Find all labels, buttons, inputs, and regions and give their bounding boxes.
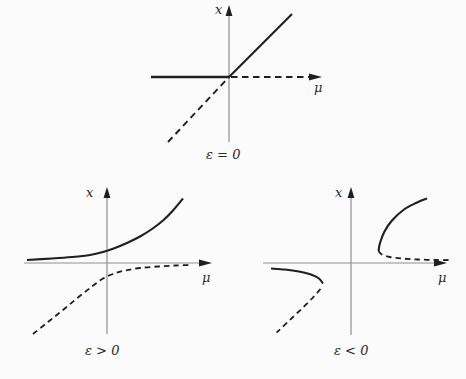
plot3-x-axis-variable-label: x [335, 186, 342, 199]
p1-y-arrowhead [226, 5, 233, 16]
p1-diagonal-stable [229, 14, 292, 77]
plot3-mu-axis-label: μ [438, 271, 446, 284]
p3-right-branch-solid [379, 199, 428, 252]
plot1-caption: ε = 0 [206, 148, 240, 161]
plot2-caption: ε > 0 [85, 344, 119, 357]
p3-left-branch-dashed [277, 289, 321, 333]
bifurcation-figure: x μ ε = 0 x μ ε > 0 x μ ε < 0 [0, 0, 466, 379]
p1-diagonal-unstable [168, 78, 229, 143]
plot1-x-axis-variable-label: x [215, 3, 222, 16]
p3-y-arrowhead [348, 187, 355, 198]
p2-lower-branch-dashed [33, 265, 191, 334]
plot3-caption: ε < 0 [334, 344, 368, 357]
plot2-x-axis-variable-label: x [86, 186, 93, 199]
plot1-mu-axis-label: μ [314, 81, 322, 94]
p2-x-arrowhead [199, 259, 212, 266]
p2-y-arrowhead [104, 187, 111, 198]
p3-right-branch-dashed [379, 251, 453, 260]
curves-canvas [0, 0, 466, 379]
plot2-mu-axis-label: μ [202, 271, 210, 284]
p3-left-branch-solid [271, 269, 323, 284]
p2-upper-branch-solid [27, 199, 183, 261]
